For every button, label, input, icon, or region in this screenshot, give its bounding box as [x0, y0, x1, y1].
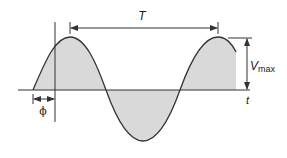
amplitude-label: Vmax — [250, 59, 276, 74]
shaded-area — [33, 37, 236, 141]
sine-wave-diagram: T Vmax t ϕ — [0, 0, 287, 158]
time-axis-label: t — [246, 94, 250, 106]
amplitude-label-sub: max — [258, 64, 276, 74]
period-dimension: T — [70, 9, 218, 34]
period-label: T — [138, 9, 147, 23]
phase-dimension: ϕ — [33, 94, 54, 118]
phase-label: ϕ — [39, 105, 47, 118]
